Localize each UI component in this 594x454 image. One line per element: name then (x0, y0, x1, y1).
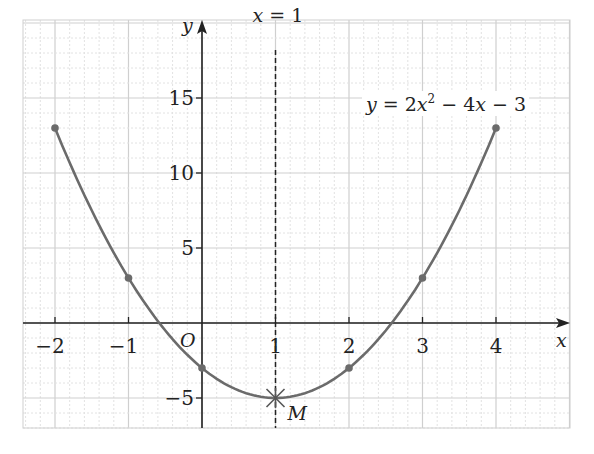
y-tick-label: −5 (165, 386, 194, 410)
y-axis-label: y (181, 14, 193, 36)
origin-label: O (180, 329, 196, 351)
x-tick-label: 4 (490, 334, 503, 358)
x-tick-label: 3 (416, 334, 429, 358)
data-point (345, 364, 353, 372)
x-tick-label: −2 (35, 334, 64, 358)
function-label: y = 2x2 − 4x − 3 (365, 92, 526, 115)
x-tick-label: 2 (343, 334, 356, 358)
x-axis-label: x (556, 329, 567, 351)
data-point (492, 124, 500, 132)
labels: y = 2x2 − 4x − 3 x = 1 (253, 4, 530, 116)
data-point (419, 274, 427, 282)
vertex-label: M (287, 402, 308, 424)
y-tick-label: 15 (169, 86, 194, 110)
axis-of-symmetry-label: x = 1 (253, 4, 304, 26)
parabola-chart: −2−1123415105−5xyO M y = 2x2 − 4x − 3 x … (0, 0, 594, 454)
x-tick-label: −1 (109, 334, 138, 358)
grid (23, 20, 570, 428)
data-point (51, 124, 59, 132)
y-tick-label: 10 (169, 161, 194, 185)
data-point (125, 274, 133, 282)
data-point (198, 364, 206, 372)
axes: −2−1123415105−5xyO (23, 14, 570, 428)
y-tick-label: 5 (181, 236, 194, 260)
